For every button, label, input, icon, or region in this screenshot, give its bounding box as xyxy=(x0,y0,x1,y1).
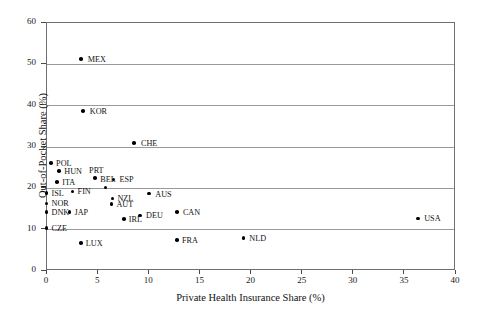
y-tick-label-20: 20 xyxy=(6,182,36,191)
point-label-hun: HUN xyxy=(64,168,82,176)
point-label-aus: AUS xyxy=(155,191,171,199)
gridline-y-50 xyxy=(47,64,454,65)
data-point-can xyxy=(175,210,179,214)
point-label-che: CHE xyxy=(141,140,157,148)
point-label-prt: PRT xyxy=(89,167,104,175)
gridline-y-40 xyxy=(47,105,454,106)
y-tick-label-0: 0 xyxy=(6,265,36,274)
gridline-y-30 xyxy=(47,147,454,148)
x-tick-30 xyxy=(352,270,353,274)
point-label-fin: FIN xyxy=(78,188,91,196)
data-point-prt xyxy=(93,176,97,180)
y-tick-label-40: 40 xyxy=(6,100,36,109)
point-label-mex: MEX xyxy=(88,56,106,64)
gridline-y-20 xyxy=(47,188,454,189)
point-label-ita: ITA xyxy=(62,179,75,187)
point-label-jap: JAP xyxy=(75,209,89,217)
data-point-jap xyxy=(68,210,72,214)
data-point-ita xyxy=(55,180,59,184)
point-label-aut: AUT xyxy=(116,201,133,209)
x-tick-35 xyxy=(403,270,404,274)
point-label-nld: NLD xyxy=(249,235,266,243)
y-tick-label-60: 60 xyxy=(6,17,36,26)
x-tick-label-35: 35 xyxy=(389,276,419,285)
point-label-bel: BEL xyxy=(100,176,115,184)
data-point-pol xyxy=(49,161,53,165)
point-label-esp: ESP xyxy=(119,176,133,184)
gridline-y-10 xyxy=(47,229,454,230)
point-label-fra: FRA xyxy=(182,237,198,245)
scatter-chart-figure: 0102030405060 0510152025303540 MEXKORCHE… xyxy=(0,0,479,323)
x-tick-0 xyxy=(46,270,47,274)
x-axis-title: Private Health Insurance Share (%) xyxy=(46,292,455,303)
point-label-usa: USA xyxy=(424,215,440,223)
point-label-irl: IRL xyxy=(129,216,142,224)
y-tick-label-10: 10 xyxy=(6,224,36,233)
data-point-usa xyxy=(416,217,420,221)
point-label-isl: ISL xyxy=(52,190,64,198)
x-tick-label-10: 10 xyxy=(133,276,163,285)
data-point-che xyxy=(132,141,136,145)
data-point-fra xyxy=(175,238,179,242)
point-label-dnk: DNK xyxy=(52,209,70,217)
plot-area xyxy=(46,22,455,270)
x-tick-label-20: 20 xyxy=(236,276,266,285)
x-tick-label-5: 5 xyxy=(82,276,112,285)
x-tick-label-40: 40 xyxy=(440,276,470,285)
data-point-lux xyxy=(79,241,83,245)
x-tick-label-30: 30 xyxy=(338,276,368,285)
point-label-lux: LUX xyxy=(86,240,103,248)
x-tick-10 xyxy=(148,270,149,274)
x-tick-40 xyxy=(455,270,456,274)
data-point-hun xyxy=(57,169,61,173)
data-point-mex xyxy=(79,57,83,61)
data-point-kor xyxy=(81,109,85,113)
x-tick-15 xyxy=(199,270,200,274)
y-tick-label-50: 50 xyxy=(6,58,36,67)
point-label-kor: KOR xyxy=(90,108,107,116)
point-label-can: CAN xyxy=(183,209,200,217)
data-point-irl xyxy=(122,217,126,221)
x-tick-5 xyxy=(97,270,98,274)
x-tick-20 xyxy=(250,270,251,274)
x-tick-25 xyxy=(301,270,302,274)
point-label-deu: DEU xyxy=(146,212,163,220)
point-label-cze: CZE xyxy=(52,225,67,233)
data-point-nld xyxy=(242,236,246,240)
x-tick-label-15: 15 xyxy=(184,276,214,285)
x-tick-label-0: 0 xyxy=(31,276,61,285)
x-tick-label-25: 25 xyxy=(287,276,317,285)
y-tick-label-30: 30 xyxy=(6,141,36,150)
y-axis-title: Out-of-Pocket Share (%) xyxy=(37,22,48,270)
data-point-aut xyxy=(110,202,114,206)
